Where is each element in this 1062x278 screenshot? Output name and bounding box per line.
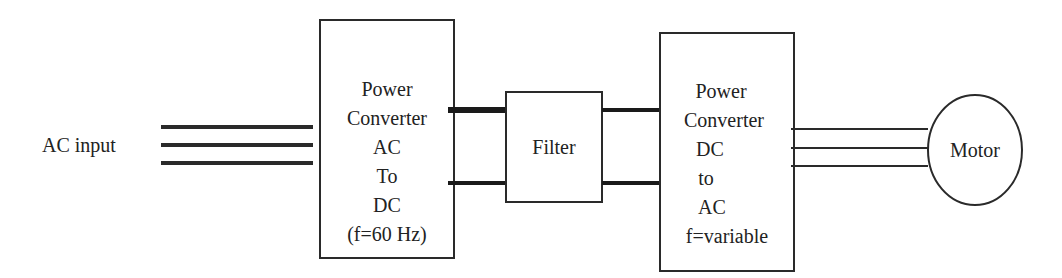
ac-input-lines xyxy=(161,127,313,163)
filter-line: Filter xyxy=(532,133,575,162)
dc-bus-lines-1 xyxy=(448,110,506,183)
rectifier-line: DC xyxy=(373,191,401,220)
inverter-line: Converter xyxy=(684,106,764,135)
diagram: AC input Power Converter AC To DC (f=60 … xyxy=(0,0,1062,278)
rectifier-line: (f=60 Hz) xyxy=(347,220,427,249)
inverter-line: f=variable xyxy=(686,222,768,251)
inverter-line: AC xyxy=(698,193,726,222)
rectifier-line: Power xyxy=(361,75,412,104)
rectifier-label: Power Converter AC To DC (f=60 Hz) xyxy=(320,75,454,249)
inverter-line: DC xyxy=(696,135,724,164)
rectifier-line: To xyxy=(377,162,398,191)
motor-label: Motor xyxy=(928,138,1022,162)
rectifier-line: AC xyxy=(373,133,401,162)
inverter-label: Power Converter DC to AC f=variable xyxy=(660,77,794,251)
ac-input-label: AC input xyxy=(42,133,116,157)
rectifier-line: Converter xyxy=(347,104,427,133)
motor-lines xyxy=(791,129,928,166)
filter-label: Filter xyxy=(506,133,602,162)
inverter-line: to xyxy=(698,164,714,193)
inverter-line: Power xyxy=(695,77,746,106)
dc-bus-lines-2 xyxy=(602,110,660,183)
